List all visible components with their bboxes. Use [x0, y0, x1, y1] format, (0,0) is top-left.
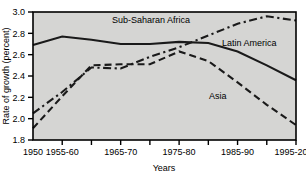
y-tick-label: 2.6 — [12, 50, 25, 60]
y-tick-label: 1.8 — [12, 135, 25, 145]
x-tick-label: 1985-90 — [221, 147, 254, 157]
x-tick-label: 1950 — [23, 147, 43, 157]
y-axis-title: Rate of growth (percent) — [1, 27, 11, 124]
chart-figure: 1.82.02.22.42.62.83.0 19501955-601965-70… — [0, 0, 306, 175]
x-tick-label: 1955-60 — [46, 147, 79, 157]
plot-area-background — [33, 12, 296, 140]
x-axis-title: Years — [153, 163, 176, 173]
series-label-latin-america: Latin America — [222, 38, 277, 48]
y-tick-label: 2.2 — [12, 93, 25, 103]
series-label-sub-saharan-africa: Sub-Saharan Africa — [112, 15, 190, 25]
x-tick-label: 1975-80 — [163, 147, 196, 157]
y-tick-label: 2.4 — [12, 71, 25, 81]
x-tick-label: 1995-2000 — [274, 147, 306, 157]
x-tick-label: 1965-70 — [104, 147, 137, 157]
growth-rate-line-chart: 1.82.02.22.42.62.83.0 19501955-601965-70… — [0, 0, 306, 175]
y-tick-label: 2.0 — [12, 114, 25, 124]
series-label-asia: Asia — [209, 91, 227, 101]
y-tick-label: 2.8 — [12, 29, 25, 39]
y-tick-label: 3.0 — [12, 7, 25, 17]
